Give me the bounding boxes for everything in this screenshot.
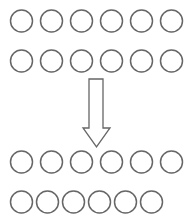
circle-shape	[161, 10, 183, 32]
circle-shape	[101, 50, 123, 72]
circle-shape	[131, 50, 153, 72]
circle-shape	[71, 10, 93, 32]
circle-shape	[11, 50, 33, 72]
circle-shape	[161, 151, 183, 173]
circle-shape	[101, 151, 123, 173]
circle-shape	[63, 191, 85, 213]
bottom-row-2	[11, 191, 163, 213]
circle-shape	[37, 191, 59, 213]
circle-shape	[101, 10, 123, 32]
circle-shape	[115, 191, 137, 213]
circles-diagram	[0, 0, 190, 223]
circle-shape	[41, 10, 63, 32]
circle-shape	[161, 50, 183, 72]
circle-shape	[89, 191, 111, 213]
circle-shape	[131, 151, 153, 173]
top-row-2	[11, 50, 183, 72]
down-arrow-icon	[83, 79, 110, 147]
circle-shape	[41, 151, 63, 173]
circle-shape	[41, 50, 63, 72]
circle-shape	[11, 10, 33, 32]
circle-shape	[131, 10, 153, 32]
bottom-row-1	[11, 151, 183, 173]
circle-shape	[71, 50, 93, 72]
circle-shape	[141, 191, 163, 213]
circle-shape	[11, 191, 33, 213]
circle-shape	[71, 151, 93, 173]
circle-shape	[11, 151, 33, 173]
top-row-1	[11, 10, 183, 32]
